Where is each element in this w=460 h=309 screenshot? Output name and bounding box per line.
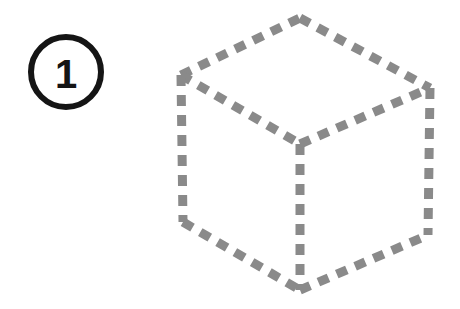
cube-edge-top-face-lower-left — [181, 75, 300, 144]
isometric-cube — [181, 18, 430, 290]
step-marker-label: 1 — [55, 52, 77, 96]
cube-edge-bottom-left — [183, 222, 300, 290]
cube-edge-top-face-lower-right — [300, 88, 430, 144]
illustration-svg: Step 1 isometric cube illustration 1 — [0, 0, 460, 309]
figure-canvas: Step 1 isometric cube illustration 1 — [0, 0, 460, 309]
cube-edge-top-face-upper-right — [300, 18, 430, 88]
cube-edge-right-vertical — [428, 88, 430, 235]
cube-edge-top-face-upper-left — [181, 18, 300, 75]
cube-edge-bottom-right — [300, 235, 428, 290]
step-marker-1: 1 — [31, 37, 101, 107]
cube-edge-left-vertical — [181, 75, 183, 222]
